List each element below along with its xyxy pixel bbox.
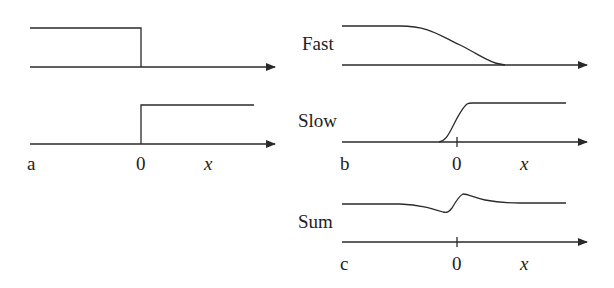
panel-b-label: b bbox=[340, 153, 350, 174]
panel-c-label: c bbox=[340, 253, 348, 274]
panel-a bbox=[30, 28, 275, 144]
figure: a 0 x Fast Slow b 0 x Sum c 0 x bbox=[0, 0, 614, 288]
panel-a-axis-label: x bbox=[203, 153, 213, 174]
panel-c bbox=[342, 194, 587, 247]
panel-c-origin-label: 0 bbox=[452, 253, 462, 274]
step-up-curve bbox=[141, 105, 254, 144]
fast-label: Fast bbox=[302, 33, 334, 54]
panel-a-origin-label: 0 bbox=[136, 153, 146, 174]
fast-curve bbox=[342, 26, 505, 65]
panel-c-axis-label: x bbox=[519, 253, 529, 274]
panel-b-origin-label: 0 bbox=[452, 153, 462, 174]
slow-label: Slow bbox=[298, 110, 337, 131]
panel-a-label: a bbox=[27, 153, 36, 174]
step-down-curve bbox=[30, 28, 141, 67]
slow-curve bbox=[439, 103, 566, 142]
panel-b-axis-label: x bbox=[519, 153, 529, 174]
panel-b bbox=[342, 26, 587, 147]
sum-label: Sum bbox=[298, 211, 333, 232]
sum-curve bbox=[342, 194, 566, 212]
